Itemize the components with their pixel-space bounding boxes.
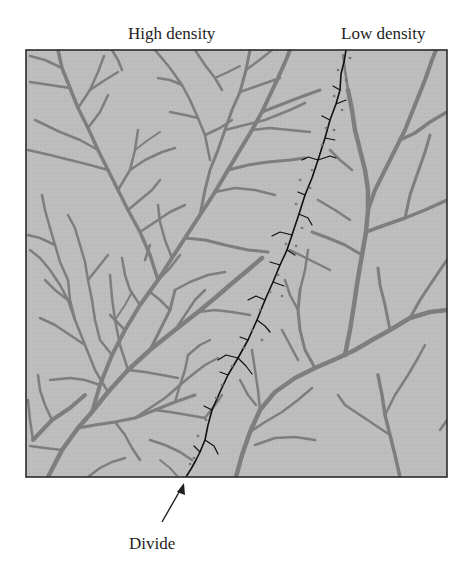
drainage-density-diagram [0, 0, 471, 567]
divide-arrow-icon [162, 483, 185, 522]
